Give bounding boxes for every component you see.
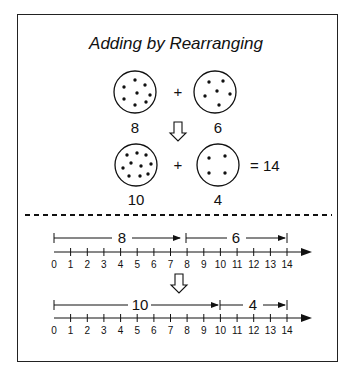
svg-text:8: 8: [184, 259, 190, 270]
down-arrow-icon: [170, 122, 186, 141]
down-arrow-icon: [171, 274, 187, 293]
diagram-canvas: + 8 6 + = 14 10 4: [0, 0, 352, 380]
svg-text:13: 13: [265, 325, 277, 336]
svg-text:5: 5: [134, 259, 140, 270]
count-label-10: 10: [128, 191, 145, 208]
svg-text:8: 8: [184, 325, 190, 336]
number-line-2: [54, 300, 312, 322]
plus-sign-1: +: [174, 83, 183, 100]
svg-text:6: 6: [151, 259, 157, 270]
set-10-circle: [115, 144, 157, 186]
sum-result: = 14: [250, 157, 280, 174]
svg-text:2: 2: [85, 259, 91, 270]
count-label-8: 8: [131, 119, 139, 136]
svg-text:13: 13: [265, 259, 277, 270]
count-label-4: 4: [214, 191, 222, 208]
svg-text:3: 3: [101, 259, 107, 270]
svg-text:2: 2: [85, 325, 91, 336]
set-4-circle: [197, 144, 239, 186]
number-line-1: [54, 233, 312, 256]
svg-text:4: 4: [118, 325, 124, 336]
set-6-circle: [194, 71, 236, 113]
span-label-6: 6: [232, 229, 240, 246]
svg-text:1: 1: [68, 325, 74, 336]
tick-labels-2: 0 1 2 3 4 5 6 7 8 9 10 11 12 13 14: [51, 325, 293, 336]
tick-labels-1: 0 1 2 3 4 5 6 7 8 9 10 11 12 13 14: [51, 259, 293, 270]
span-label-8: 8: [118, 229, 126, 246]
svg-text:14: 14: [281, 259, 293, 270]
svg-text:4: 4: [118, 259, 124, 270]
svg-text:9: 9: [201, 259, 207, 270]
span-label-10: 10: [132, 296, 149, 313]
svg-text:5: 5: [134, 325, 140, 336]
span-label-4: 4: [249, 296, 257, 313]
svg-text:11: 11: [232, 325, 243, 336]
svg-text:6: 6: [151, 325, 157, 336]
svg-text:10: 10: [215, 325, 227, 336]
svg-text:11: 11: [232, 259, 243, 270]
svg-text:12: 12: [248, 259, 260, 270]
count-label-6: 6: [214, 119, 222, 136]
svg-text:9: 9: [201, 325, 207, 336]
plus-sign-2: +: [174, 156, 183, 173]
svg-text:7: 7: [168, 325, 174, 336]
svg-text:14: 14: [281, 325, 293, 336]
svg-text:10: 10: [215, 259, 227, 270]
svg-text:3: 3: [101, 325, 107, 336]
svg-text:1: 1: [68, 259, 74, 270]
set-8-circle: [114, 71, 156, 113]
svg-text:12: 12: [248, 325, 260, 336]
svg-text:7: 7: [168, 259, 174, 270]
svg-text:0: 0: [51, 259, 57, 270]
svg-text:0: 0: [51, 325, 57, 336]
